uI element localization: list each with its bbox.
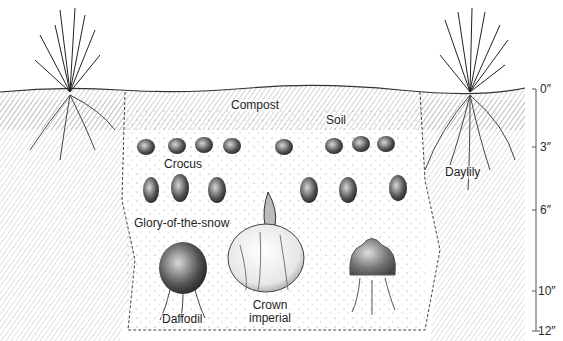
compost-label: Compost bbox=[230, 99, 280, 112]
depth-tick-3: 3″ bbox=[540, 140, 551, 154]
crown-imperial-label-line1: Crown bbox=[253, 298, 288, 312]
glory-of-the-snow-label: Glory-of-the-snow bbox=[133, 217, 230, 230]
crown-imperial-label-line2: imperial bbox=[249, 311, 291, 325]
native-soil-right bbox=[420, 100, 525, 341]
soil-label: Soil bbox=[325, 114, 347, 127]
native-soil-left bbox=[0, 100, 135, 341]
depth-tick-10: 10″ bbox=[538, 284, 556, 298]
daylily-label: Daylily bbox=[444, 166, 481, 179]
depth-tick-6: 6″ bbox=[540, 203, 551, 217]
depth-tick-12: 12″ bbox=[538, 324, 556, 338]
bulb-planting-diagram: Compost Soil Crocus Glory-of-the-snow Da… bbox=[0, 0, 563, 341]
daffodil-label: Daffodil bbox=[161, 313, 203, 326]
crown-imperial-label: Crown imperial bbox=[248, 299, 292, 325]
crocus-label: Crocus bbox=[163, 158, 203, 171]
depth-tick-0: 0″ bbox=[540, 82, 551, 96]
